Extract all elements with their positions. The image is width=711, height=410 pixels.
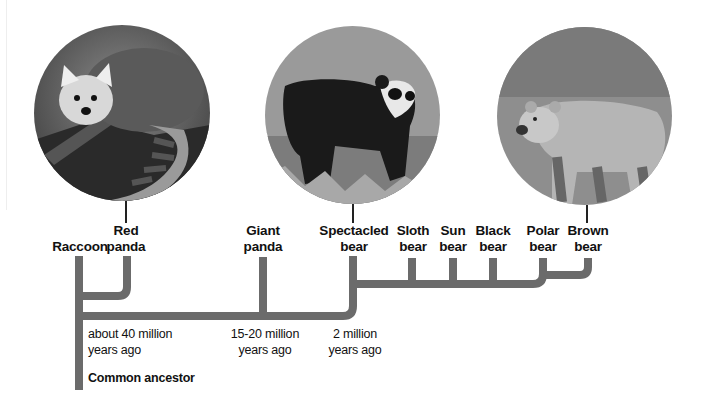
label-black-bear: Black bear — [475, 223, 510, 255]
common-ancestor-label: Common ancestor — [88, 371, 195, 385]
divergence-40-million: about 40 million years ago — [88, 326, 172, 358]
label-sun-bear: Sun bear — [439, 223, 467, 255]
label-raccoon: Raccoon — [52, 239, 108, 255]
bear-clade-branch — [353, 258, 543, 284]
red-panda-branch — [79, 256, 127, 296]
divergence-15-20-million: 15-20 million years ago — [231, 326, 299, 358]
label-polar-bear: Polar bear — [527, 223, 560, 255]
label-brown-bear: Brown bear — [568, 223, 609, 255]
label-red-panda: Red panda — [107, 223, 146, 255]
main-branch — [79, 256, 353, 316]
label-spectacled-bear: Spectacled bear — [319, 223, 388, 255]
divergence-2-million: 2 million years ago — [328, 326, 381, 358]
label-giant-panda: Giant panda — [244, 223, 283, 255]
label-sloth-bear: Sloth bear — [397, 223, 430, 255]
polar-brown-branch — [543, 258, 588, 275]
